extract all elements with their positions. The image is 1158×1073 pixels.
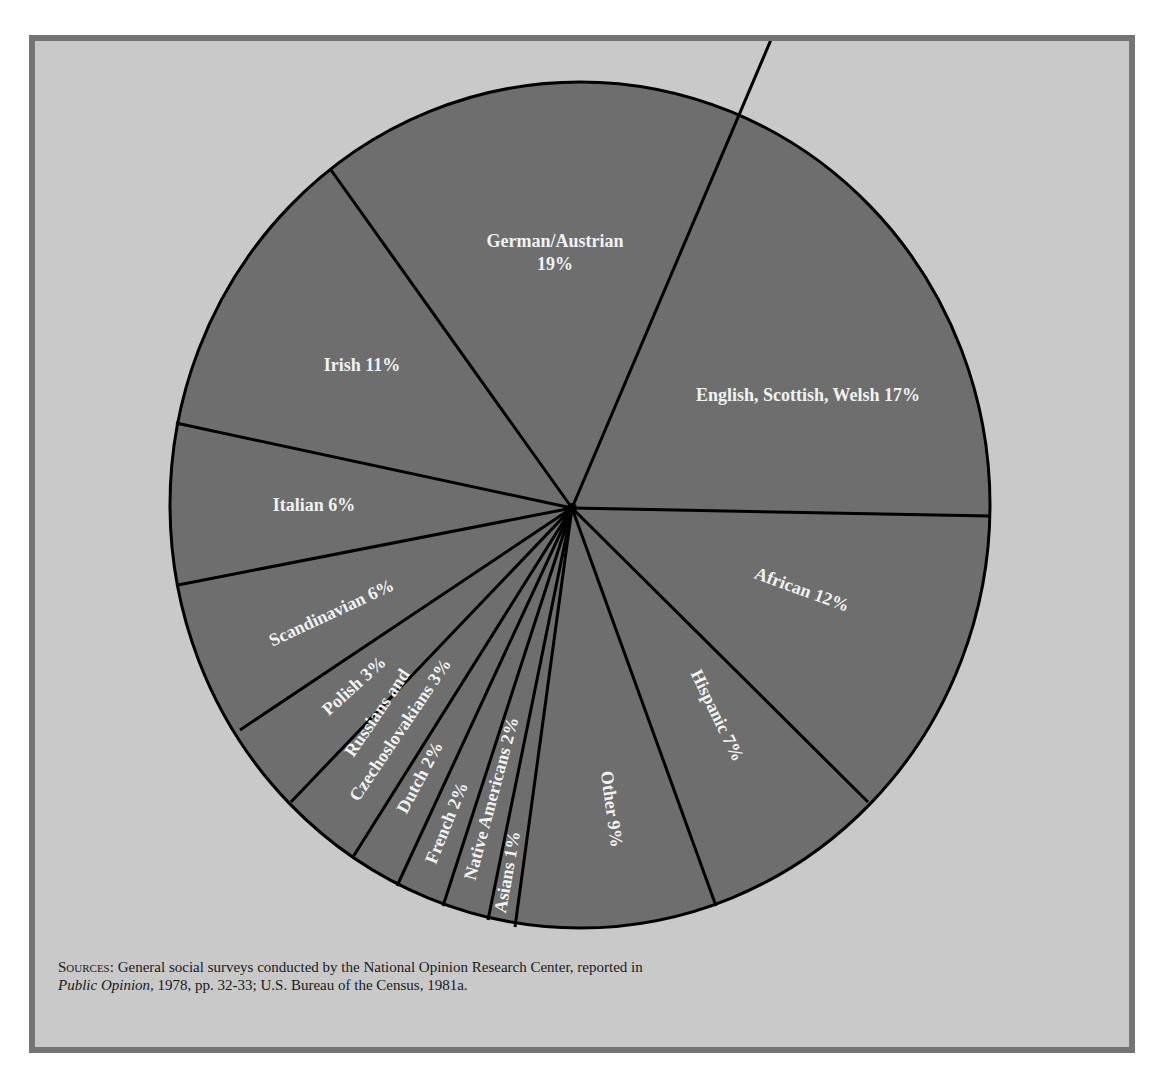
source-prefix: Sources: [58,959,114,975]
label-irish: Irish 11% [324,355,401,375]
source-text-1: General social surveys conducted by the … [114,959,643,975]
label-german-value: 19% [537,254,573,274]
label-italian: Italian 6% [273,495,356,515]
source-publication: Public Opinion, [58,977,154,993]
label-german: German/Austrian [487,231,624,251]
label-english: English, Scottish, Welsh 17% [696,385,920,405]
source-note: Sources: General social surveys conducte… [58,958,678,994]
pie-center [567,503,577,513]
source-text-2: 1978, pp. 32-33; U.S. Bureau of the Cens… [154,977,468,993]
pie-chart: German/Austrian 19% English, Scottish, W… [0,0,1158,1073]
